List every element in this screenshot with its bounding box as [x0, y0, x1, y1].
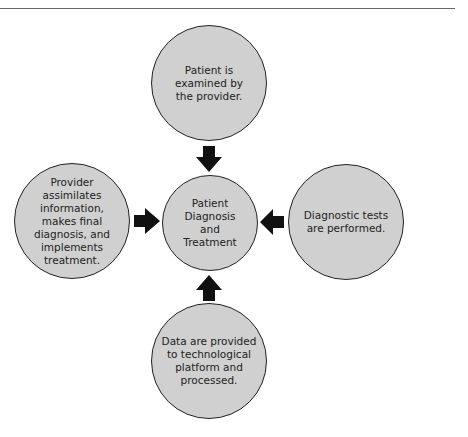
node-bottom: Data are provided to technological platf…	[151, 303, 267, 419]
top-rule	[0, 8, 455, 9]
node-top: Patient is examined by the provider.	[151, 25, 267, 141]
arrow-left-icon	[260, 209, 284, 235]
arrow-down-icon	[196, 146, 222, 172]
node-top-label: Patient is examined by the provider.	[175, 64, 243, 103]
node-center: Patient Diagnosis and Treatment	[162, 175, 258, 271]
node-right-label: Diagnostic tests are performed.	[304, 209, 388, 235]
arrow-up-icon	[196, 275, 222, 301]
node-left-label: Provider assimilates information, makes …	[34, 176, 110, 267]
node-center-label: Patient Diagnosis and Treatment	[183, 197, 236, 249]
node-left: Provider assimilates information, makes …	[14, 163, 130, 279]
node-right: Diagnostic tests are performed.	[288, 164, 404, 280]
node-bottom-label: Data are provided to technological platf…	[162, 335, 257, 387]
arrow-right-icon	[134, 208, 160, 234]
